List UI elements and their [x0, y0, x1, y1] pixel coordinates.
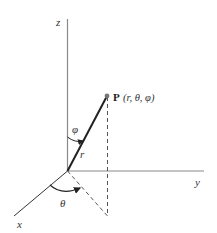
theta-label: θ [60, 197, 66, 209]
point-p-label: P [113, 91, 120, 103]
theta-angle-arc [50, 185, 80, 191]
radius-label: r [80, 148, 85, 160]
x-axis-label: x [16, 218, 22, 230]
z-axis-label: z [55, 16, 61, 28]
point-p [105, 94, 110, 99]
phi-angle-arc [68, 137, 84, 142]
phi-label: φ [72, 123, 78, 135]
x-axis [14, 171, 68, 216]
y-axis-label: y [194, 176, 200, 188]
projection-base-dashed [68, 171, 108, 216]
spherical-coordinates-diagram: z y x P (r, θ, φ) r φ θ [0, 0, 217, 233]
point-p-coordinates: (r, θ, φ) [123, 92, 155, 104]
